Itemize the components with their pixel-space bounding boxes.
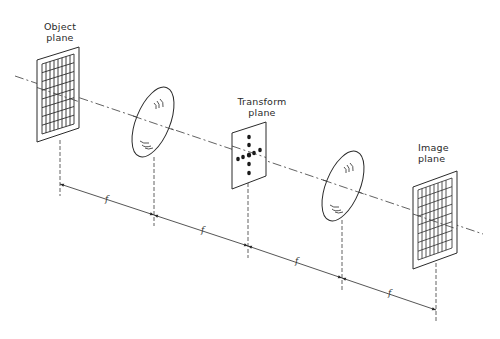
transform-plane-label-line1: Transform [234,96,290,107]
transform-plane [232,122,266,189]
optical-diagram: Object plane Transform plane Image plane… [0,0,500,339]
focal-length-label-3: f [295,256,298,266]
object-plane-label-line2: plane [37,32,83,43]
lens-1 [123,81,182,162]
focal-length-label-1: f [105,194,108,204]
focal-length-label-2: f [201,225,204,235]
image-plane-label-line2: plane [418,153,456,164]
object-plane [37,47,79,142]
object-plane-label-line1: Object [37,21,83,32]
diagram-svg [0,0,500,339]
object-plane-label: Object plane [37,21,83,43]
lens-2 [313,145,372,226]
focal-length-label-4: f [388,288,391,298]
transform-plane-label-line2: plane [234,107,290,118]
image-plane [413,171,457,269]
image-plane-label: Image plane [418,142,456,164]
transform-plane-label: Transform plane [234,96,290,118]
image-plane-label-line1: Image [418,142,456,153]
